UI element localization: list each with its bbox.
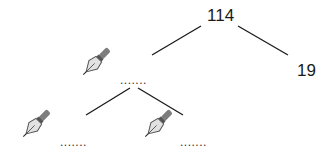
- pen-nib-icon: [78, 44, 114, 80]
- edge-root-right: [238, 26, 288, 55]
- edge-mid-left: [86, 88, 130, 115]
- edge-root-left: [152, 26, 201, 55]
- right-node-value: 19: [297, 62, 316, 79]
- pen-nib-icon: [18, 106, 54, 142]
- bottom-right-blank[interactable]: .......: [180, 136, 207, 148]
- root-node-value: 114: [207, 7, 234, 24]
- pen-nib-icon: [140, 106, 176, 142]
- mid-left-blank[interactable]: .......: [120, 74, 147, 86]
- bottom-left-blank[interactable]: .......: [60, 136, 87, 148]
